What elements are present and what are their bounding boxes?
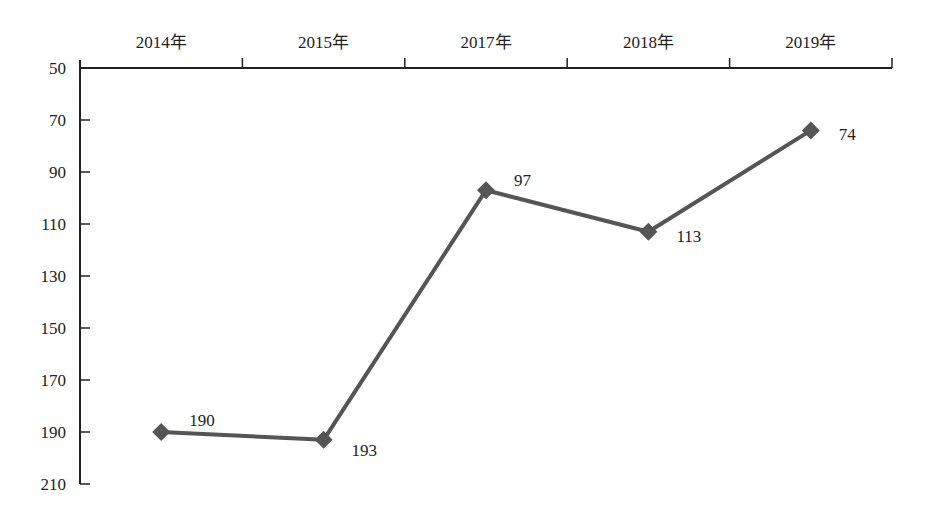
x-category-label: 2018年 <box>623 33 674 52</box>
y-tick-label: 130 <box>41 267 67 286</box>
y-tick-label: 210 <box>41 475 67 494</box>
y-tick-label: 50 <box>49 59 66 78</box>
data-label: 193 <box>352 441 378 460</box>
diamond-marker <box>152 423 170 441</box>
diamond-marker <box>802 121 820 139</box>
data-label: 113 <box>676 227 701 246</box>
series-markers <box>152 121 820 448</box>
y-tick-label: 150 <box>41 319 67 338</box>
series-polyline <box>161 130 811 439</box>
data-label: 97 <box>514 171 532 190</box>
series-line <box>161 130 811 439</box>
line-chart: 507090110130150170190210 2014年2015年2017年… <box>0 0 928 531</box>
x-category-label: 2017年 <box>461 33 512 52</box>
data-label: 74 <box>839 125 857 144</box>
y-axis-labels: 507090110130150170190210 <box>41 59 67 494</box>
y-tick-label: 90 <box>49 163 66 182</box>
y-tick-label: 170 <box>41 371 67 390</box>
data-label: 190 <box>189 411 215 430</box>
x-category-label: 2014年 <box>136 33 187 52</box>
data-labels: 1901939711374 <box>189 125 856 459</box>
x-axis-labels: 2014年2015年2017年2018年2019年 <box>136 33 837 52</box>
x-category-label: 2015年 <box>298 33 349 52</box>
y-tick-label: 70 <box>49 111 66 130</box>
y-tick-label: 110 <box>41 215 66 234</box>
y-tick-label: 190 <box>41 423 67 442</box>
diamond-marker <box>639 223 657 241</box>
x-category-label: 2019年 <box>785 33 836 52</box>
